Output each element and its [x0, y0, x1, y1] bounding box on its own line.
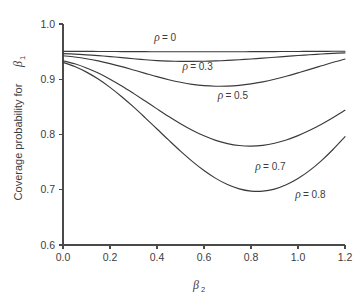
x-axis-tick-label: 0.2	[103, 251, 118, 263]
y-axis-tick-label: 1.0	[40, 18, 55, 30]
x-axis-tick-label: 0.6	[197, 251, 212, 263]
x-axis-tick-label: 0.4	[150, 251, 165, 263]
chart-page: 0.00.20.40.60.81.01.2 0.60.70.80.91.0 ρ …	[0, 0, 363, 301]
curve-label: ρ = 0.5	[217, 89, 249, 102]
series-curve	[63, 51, 345, 52]
curve-label: ρ = 0.7	[254, 160, 286, 173]
svg-text:β: β	[192, 278, 199, 292]
curve-label-rho-symbol: ρ	[181, 60, 188, 73]
curve-label-value: = 0.7	[263, 161, 286, 172]
curve-label-rho-symbol: ρ	[217, 89, 224, 102]
curve-label-value: = 0	[162, 32, 177, 43]
x-axis-tick-label: 1.2	[338, 251, 353, 263]
curve-label-value: = 0.8	[303, 189, 326, 200]
x-axis-tick-label: 0.8	[244, 251, 259, 263]
svg-text:Coverage probability for: Coverage probability for	[12, 83, 24, 200]
x-axis-tick-label: 0.0	[56, 251, 71, 263]
curve-label: ρ = 0.3	[181, 60, 213, 73]
svg-text:1: 1	[18, 56, 27, 60]
curve-label-rho-symbol: ρ	[254, 160, 261, 173]
curve-label: ρ = 0	[153, 31, 176, 44]
x-axis-tick-label: 1.0	[291, 251, 306, 263]
coverage-probability-chart: 0.00.20.40.60.81.01.2 0.60.70.80.91.0 ρ …	[0, 0, 363, 301]
svg-text:2: 2	[201, 285, 205, 294]
curve-label-value: = 0.3	[190, 61, 213, 72]
curve-label-value: = 0.5	[225, 90, 248, 101]
y-axis-tick-label: 0.9	[40, 73, 55, 85]
y-axis-tick-label: 0.7	[40, 183, 55, 195]
y-axis-tick-label: 0.8	[40, 128, 55, 140]
plot-background	[0, 0, 363, 301]
curve-label: ρ = 0.8	[294, 188, 326, 201]
y-axis-tick-label: 0.6	[40, 239, 55, 251]
curve-label-rho-symbol: ρ	[153, 31, 160, 44]
curve-label-rho-symbol: ρ	[294, 188, 301, 201]
svg-text:β: β	[11, 61, 25, 68]
